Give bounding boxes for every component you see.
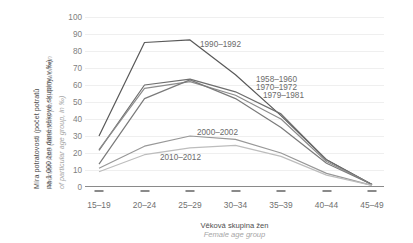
series-label-2010-2012: 2010–2012 — [160, 153, 201, 162]
y-tick-label: 0 — [42, 183, 82, 192]
x-tick-label: 45–49 — [360, 200, 383, 210]
x-tick-mark — [95, 190, 104, 192]
y-tick-label: 10 — [42, 166, 82, 175]
y-tick-label: 90 — [42, 30, 82, 39]
y-tick-label: 70 — [42, 64, 82, 73]
y-tick-label: 80 — [42, 47, 82, 56]
x-tick-label: 25–29 — [178, 200, 201, 210]
x-tick-label: 20–24 — [133, 200, 156, 210]
x-axis-title-cz: Věková skupina žen — [85, 221, 384, 230]
y-tick-label: 30 — [42, 132, 82, 141]
x-tick-mark — [368, 190, 377, 192]
x-axis-title-en: Female age group — [85, 230, 384, 239]
series-label-2000-2002: 2000–2002 — [197, 128, 238, 137]
y-tick-label: 60 — [42, 81, 82, 90]
x-tick-mark — [186, 190, 195, 192]
abortion-rate-line-chart: Míra potratovosti (počet potratů Abortio… — [0, 0, 413, 243]
series-label-1990-1992: 1990–1992 — [200, 40, 241, 49]
line-series-2000-2002 — [99, 136, 372, 185]
x-tick-mark — [277, 190, 286, 192]
x-tick-mark — [140, 190, 149, 192]
x-tick-label: 30–34 — [224, 200, 247, 210]
y-tick-label: 100 — [42, 13, 82, 22]
x-tick-mark — [322, 190, 331, 192]
y-axis-title-en-line2: of particular age group, in ‰) — [58, 96, 66, 189]
y-tick-label: 50 — [42, 98, 82, 107]
x-tick-label: 35–39 — [269, 200, 292, 210]
x-tick-label: 40–44 — [315, 200, 338, 210]
x-tick-label: 15–19 — [87, 200, 110, 210]
x-tick-mark — [231, 190, 240, 192]
y-tick-label: 40 — [42, 115, 82, 124]
y-tick-label: 20 — [42, 149, 82, 158]
plot-area: 0102030405060708090100 15–1920–2425–2930… — [85, 17, 384, 187]
series-label-1979-1981: 1979–1981 — [263, 91, 304, 100]
